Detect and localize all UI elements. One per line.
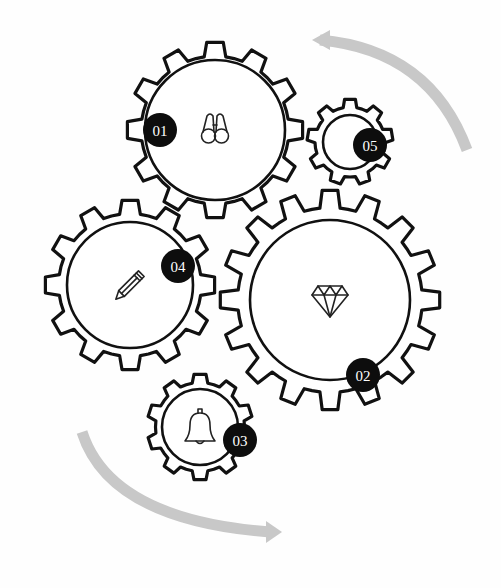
step-badge: 01 (143, 113, 177, 147)
step-number: 01 (153, 123, 168, 139)
arrowhead-bottom (266, 521, 282, 543)
gear-group: 0204010503 (45, 42, 439, 479)
gear-inner-circle (250, 220, 410, 380)
gear-01: 01 (127, 42, 302, 217)
gear-04: 04 (45, 200, 214, 369)
step-number: 04 (171, 259, 187, 275)
gear-05: 05 (307, 99, 393, 184)
diagram-canvas: 0204010503 (0, 0, 501, 588)
gear-inner-circle (162, 389, 238, 465)
gears-diagram: 0204010503 (0, 0, 501, 588)
step-badge: 04 (161, 249, 195, 283)
gear-02: 02 (220, 190, 439, 409)
step-number: 02 (356, 368, 371, 384)
step-number: 03 (233, 433, 248, 449)
arrowhead-top (312, 30, 330, 50)
step-badge: 03 (223, 423, 257, 457)
gear-03: 03 (148, 374, 257, 479)
step-badge: 02 (346, 358, 380, 392)
step-number: 05 (363, 138, 378, 154)
step-badge: 05 (353, 128, 387, 162)
